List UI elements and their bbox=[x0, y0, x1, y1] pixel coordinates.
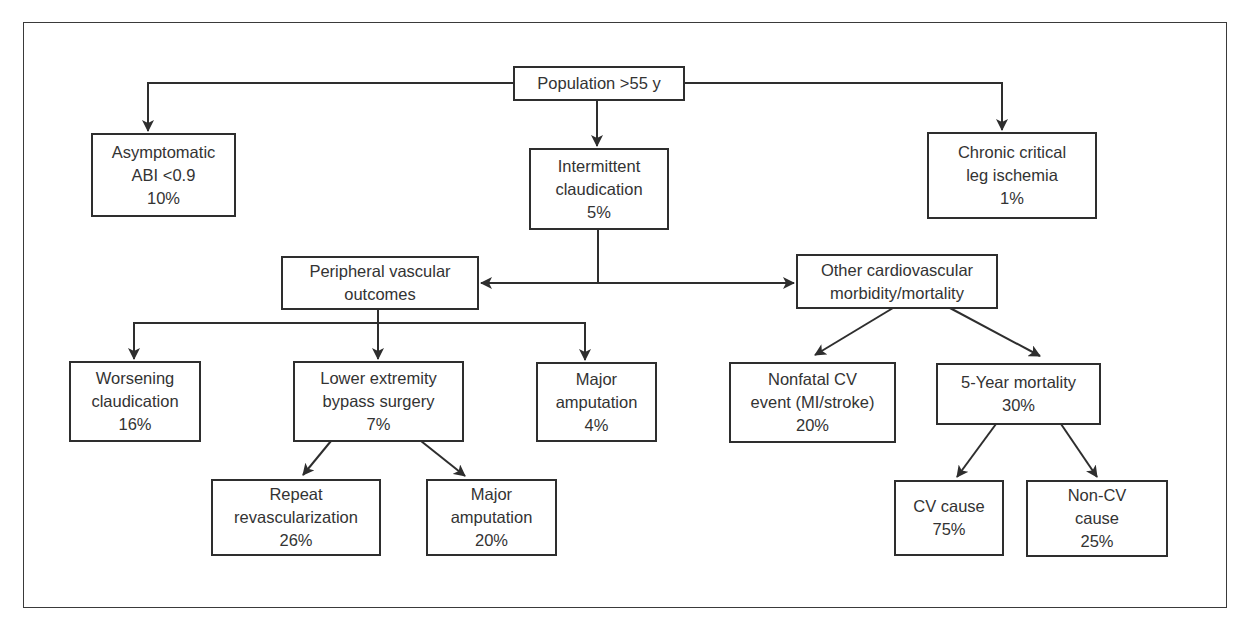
edge-bypass-amputation2 bbox=[421, 441, 465, 476]
node-label: claudication bbox=[555, 178, 642, 201]
node-label: bypass surgery bbox=[323, 390, 435, 413]
edge-bypass-repeat bbox=[303, 441, 331, 475]
node-other-cardiovascular: Other cardiovascular morbidity/mortality bbox=[796, 254, 998, 309]
node-label: Population >55 y bbox=[537, 72, 660, 95]
edge-population-asymptomatic bbox=[148, 83, 513, 131]
node-repeat-revascularization: Repeat revascularization 26% bbox=[211, 479, 381, 556]
node-worsening-claudication: Worsening claudication 16% bbox=[69, 361, 201, 442]
edge-population-chronic bbox=[685, 83, 1002, 130]
node-percent: 20% bbox=[796, 414, 829, 437]
node-label: Asymptomatic bbox=[112, 141, 216, 164]
node-percent: 16% bbox=[118, 413, 151, 436]
node-label: 5-Year mortality bbox=[961, 371, 1076, 394]
node-peripheral-vascular-outcomes: Peripheral vascular outcomes bbox=[281, 256, 479, 310]
node-percent: 1% bbox=[1000, 187, 1024, 210]
node-label: event (MI/stroke) bbox=[751, 391, 875, 414]
node-label: Major bbox=[471, 483, 512, 506]
node-percent: 7% bbox=[367, 413, 391, 436]
node-major-amputation-20: Major amputation 20% bbox=[426, 479, 557, 556]
node-label: amputation bbox=[556, 391, 638, 414]
node-non-cv-cause: Non-CV cause 25% bbox=[1026, 480, 1168, 557]
node-label: Worsening bbox=[96, 367, 175, 390]
node-percent: 20% bbox=[475, 529, 508, 552]
node-label: Nonfatal CV bbox=[768, 368, 857, 391]
node-percent: 75% bbox=[932, 518, 965, 541]
node-label: Peripheral vascular bbox=[309, 260, 450, 283]
node-lower-extremity-bypass: Lower extremity bypass surgery 7% bbox=[293, 361, 464, 442]
node-percent: 4% bbox=[585, 414, 609, 437]
node-label: claudication bbox=[91, 390, 178, 413]
node-label: amputation bbox=[451, 506, 533, 529]
node-asymptomatic: Asymptomatic ABI <0.9 10% bbox=[91, 133, 236, 217]
node-label: leg ischemia bbox=[966, 164, 1058, 187]
node-chronic-critical-leg-ischemia: Chronic critical leg ischemia 1% bbox=[927, 132, 1097, 219]
node-percent: 25% bbox=[1080, 530, 1113, 553]
node-label: Intermittent bbox=[558, 155, 641, 178]
node-population: Population >55 y bbox=[513, 66, 685, 101]
node-label: cause bbox=[1075, 507, 1119, 530]
node-percent: 10% bbox=[147, 187, 180, 210]
node-label: revascularization bbox=[234, 506, 358, 529]
edge-peripheral-worsening bbox=[134, 323, 378, 359]
node-label: outcomes bbox=[344, 283, 416, 306]
node-label: morbidity/mortality bbox=[830, 282, 964, 305]
edge-other-cv-nonfatal bbox=[815, 308, 893, 355]
node-label: Lower extremity bbox=[320, 367, 436, 390]
node-5-year-mortality: 5-Year mortality 30% bbox=[936, 363, 1101, 425]
node-label: ABI <0.9 bbox=[132, 164, 196, 187]
node-nonfatal-cv-event: Nonfatal CV event (MI/stroke) 20% bbox=[729, 362, 896, 443]
node-label: Other cardiovascular bbox=[821, 259, 973, 282]
node-percent: 5% bbox=[587, 201, 611, 224]
node-cv-cause: CV cause 75% bbox=[894, 480, 1004, 556]
node-label: Non-CV bbox=[1068, 484, 1127, 507]
node-intermittent-claudication: Intermittent claudication 5% bbox=[529, 148, 669, 230]
node-label: Repeat bbox=[269, 483, 322, 506]
node-percent: 30% bbox=[1002, 394, 1035, 417]
node-major-amputation-4: Major amputation 4% bbox=[536, 362, 657, 442]
edge-peripheral-amputation1 bbox=[378, 323, 585, 360]
node-label: CV cause bbox=[913, 495, 985, 518]
edge-mortality-cv-cause bbox=[957, 424, 996, 477]
node-label: Major bbox=[576, 368, 617, 391]
node-percent: 26% bbox=[279, 529, 312, 552]
edge-mortality-noncv-cause bbox=[1061, 424, 1097, 477]
edge-other-cv-mortality bbox=[950, 308, 1040, 356]
node-label: Chronic critical bbox=[958, 141, 1066, 164]
